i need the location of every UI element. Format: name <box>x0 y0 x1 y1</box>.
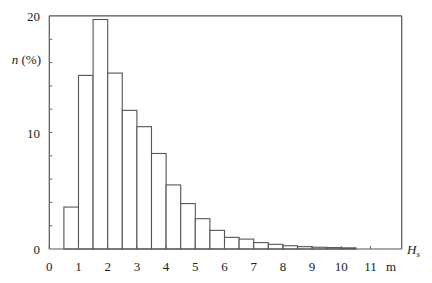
x-tick-label: 8 <box>280 259 287 274</box>
histogram-bar <box>122 110 137 249</box>
histogram-bar <box>181 204 196 249</box>
histogram-bar <box>254 243 269 249</box>
histogram-bar <box>210 230 225 249</box>
histogram-bar <box>137 127 152 249</box>
x-tick-label: 2 <box>104 259 111 274</box>
histogram-bar <box>195 219 210 249</box>
histogram-bar <box>108 73 123 249</box>
x-tick-label: 9 <box>309 259 316 274</box>
x-tick-label: 5 <box>192 259 199 274</box>
histogram-bar <box>152 153 167 249</box>
x-tick-label: 1 <box>75 259 82 274</box>
x-tick-label: 7 <box>250 259 257 274</box>
y-tick-label: 0 <box>34 242 41 257</box>
histogram-bar <box>64 207 79 249</box>
x-tick-label: 0 <box>46 259 53 274</box>
x-tick-label: 4 <box>163 259 170 274</box>
x-axis-title: Hs <box>406 242 420 259</box>
x-tick-label: 3 <box>134 259 141 274</box>
x-tick-label: 11 <box>364 259 377 274</box>
histogram-bar <box>79 75 94 249</box>
x-tick-label: 6 <box>221 259 228 274</box>
histogram-bar <box>166 185 181 249</box>
histogram-bar <box>268 244 283 249</box>
x-tick-label: 10 <box>335 259 348 274</box>
histogram-bar <box>225 237 240 249</box>
histogram-bar <box>93 19 108 249</box>
y-tick-label: 20 <box>27 9 40 24</box>
y-tick-label: 10 <box>27 126 40 141</box>
x-unit-label: m <box>386 259 396 274</box>
histogram-bar <box>239 239 254 249</box>
histogram-chart: 01234567891011m01020n (%)Hs <box>0 0 432 283</box>
y-axis-title: n (%) <box>12 52 41 67</box>
